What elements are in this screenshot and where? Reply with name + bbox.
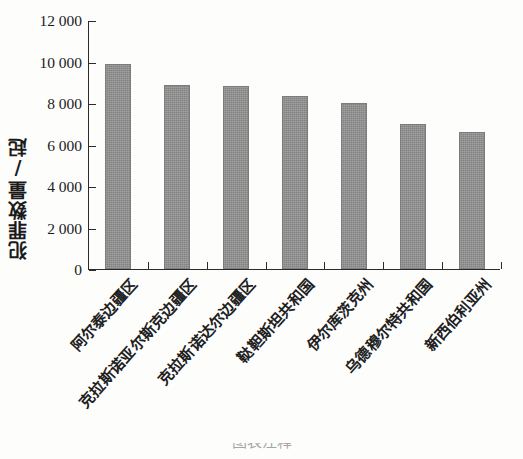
y-axis-tick-label: 12 000 [39, 13, 82, 29]
figure-caption-strip: 图表注释 [0, 443, 523, 459]
figure-caption: 图表注释 [0, 443, 523, 451]
y-axis-tick-label: 10 000 [39, 55, 82, 71]
y-axis-tick-label: 6 000 [47, 138, 82, 154]
bar [223, 86, 249, 269]
bar [282, 96, 308, 269]
y-axis-title: 犯罪数量/起 [6, 60, 32, 260]
y-axis-tick-label: 0 [74, 262, 82, 278]
bar-series [89, 21, 500, 269]
y-axis-tick-label: 4 000 [47, 179, 82, 195]
bar [400, 124, 426, 269]
y-axis-tick-label: 2 000 [47, 221, 82, 237]
y-axis-tick-mark [89, 270, 96, 271]
bar [459, 132, 485, 269]
x-axis-tick-mark [501, 262, 502, 269]
bar [164, 85, 190, 269]
bar [105, 64, 131, 269]
bar [341, 103, 367, 269]
bar-chart-figure: 犯罪数量/起 12 00010 0008 0006 0004 0002 0000… [0, 0, 523, 459]
x-axis-category-label: 克拉斯诺亚尔斯克边疆区 [76, 276, 201, 412]
y-axis-tick-label: 8 000 [47, 96, 82, 112]
plot-area: 12 00010 0008 0006 0004 0002 0000 [88, 21, 500, 270]
